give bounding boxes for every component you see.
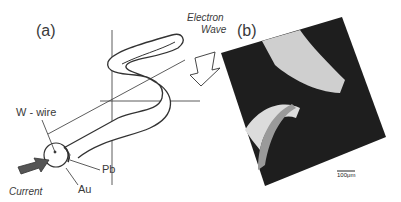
wire-schematic (42, 30, 220, 185)
electron-wave-label-2: Wave (201, 24, 226, 35)
pb-label: Pb (102, 163, 115, 175)
electron-wave-label-1: Electron (187, 12, 224, 23)
current-label: Current (9, 186, 42, 197)
au-label: Au (78, 183, 91, 195)
sem-image (221, 17, 386, 186)
w-wire-label: W - wire (16, 106, 56, 118)
scale-bar-label: 100μm (337, 172, 355, 178)
current-arrow-icon (18, 158, 49, 174)
panel-a-label: (a) (36, 22, 56, 40)
panel-b-label: (b) (237, 22, 257, 40)
